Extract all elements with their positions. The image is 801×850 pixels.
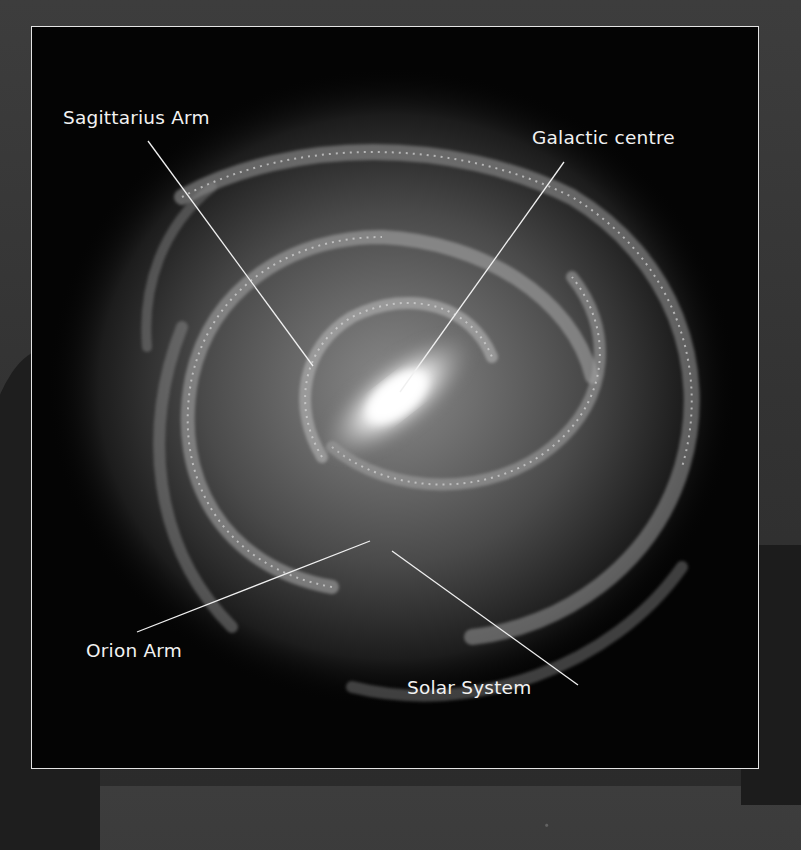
leader-line-solar-system <box>392 551 578 685</box>
label-orion-arm: Orion Arm <box>86 640 182 661</box>
leader-line-sagittarius <box>148 141 313 366</box>
label-galactic-centre: Galactic centre <box>532 127 675 148</box>
leader-line-galactic-centre <box>400 162 564 392</box>
leader-line-orion <box>137 541 370 632</box>
label-solar-system: Solar System <box>407 677 531 698</box>
label-sagittarius-arm: Sagittarius Arm <box>63 107 210 128</box>
